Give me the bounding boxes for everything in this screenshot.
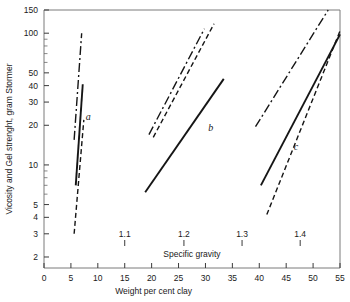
x-tick-label: 25 bbox=[174, 273, 184, 283]
x-tick-label: 50 bbox=[308, 273, 318, 283]
chart-root: 23451020304050100150 0510152025303540455… bbox=[0, 0, 350, 302]
sg-tick-label: 1.1 bbox=[119, 229, 131, 239]
x-tick-label: 0 bbox=[42, 273, 47, 283]
sg-tick-label: 1.4 bbox=[294, 229, 306, 239]
y-tick-label: 4 bbox=[33, 212, 38, 222]
y-tick-label: 30 bbox=[29, 97, 39, 107]
x-tick-label: 35 bbox=[228, 273, 238, 283]
y-tick-label: 20 bbox=[29, 120, 39, 130]
curve-label-a: a bbox=[86, 111, 91, 122]
y-tick-label: 2 bbox=[33, 252, 38, 262]
sg-tick-label: 1.3 bbox=[236, 229, 248, 239]
y-axis-label: Vicosity and Gel strenght, gram Stormer bbox=[4, 63, 14, 214]
curve-label-b: b bbox=[208, 122, 213, 133]
y-tick-label: 150 bbox=[24, 5, 38, 15]
y-tick-label: 3 bbox=[33, 229, 38, 239]
curve-label-c: c bbox=[294, 141, 299, 152]
x-tick-label: 20 bbox=[147, 273, 157, 283]
sg-tick-label: 1.2 bbox=[178, 229, 190, 239]
x-tick-label: 45 bbox=[281, 273, 291, 283]
x-tick-label: 15 bbox=[120, 273, 130, 283]
specific-gravity-axis-label: Specific gravity bbox=[163, 249, 221, 259]
semilog-chart: 23451020304050100150 0510152025303540455… bbox=[0, 0, 350, 302]
x-tick-label: 55 bbox=[335, 273, 345, 283]
y-tick-label: 50 bbox=[29, 68, 39, 78]
y-tick-label: 100 bbox=[24, 28, 38, 38]
x-axis-label: Weight per cent clay bbox=[115, 286, 193, 296]
y-tick-label: 10 bbox=[29, 160, 39, 170]
x-tick-label: 30 bbox=[201, 273, 211, 283]
y-tick-label: 5 bbox=[33, 200, 38, 210]
y-tick-label: 40 bbox=[29, 81, 39, 91]
x-tick-label: 10 bbox=[93, 273, 103, 283]
x-tick-label: 40 bbox=[255, 273, 265, 283]
x-tick-label: 5 bbox=[69, 273, 74, 283]
